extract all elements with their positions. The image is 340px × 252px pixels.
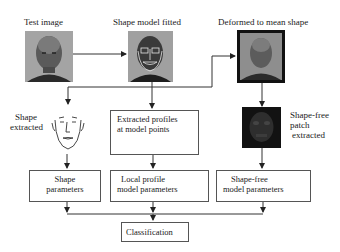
shape-free-line2: model parameters	[223, 184, 304, 194]
local-profile-line1: Local profile	[117, 174, 202, 184]
face-photo-icon	[25, 31, 73, 82]
shape-params-line2: parameters	[36, 184, 94, 194]
local-profile-parameters-box: Local profile model parameters	[110, 170, 209, 202]
shape-extracted-line2: extracted	[10, 122, 42, 132]
deformed-photo	[237, 30, 285, 83]
face-mesh-icon	[128, 31, 173, 82]
face-patch-icon	[242, 107, 281, 148]
shape-free-parameters-box: Shape-free model parameters	[216, 170, 311, 202]
local-profile-line2: model parameters	[117, 184, 202, 194]
shape-model-label: Shape model fitted	[113, 17, 181, 27]
extracted-profiles-box: Extracted profiles at model points	[110, 110, 199, 155]
classification-box: Classification	[121, 222, 189, 242]
shape-extracted-line1: Shape	[10, 112, 42, 122]
shape-params-line1: Shape	[36, 174, 94, 184]
shape-outline-face-icon	[50, 110, 86, 152]
shape-parameters-box: Shape parameters	[29, 170, 101, 202]
patch-line1: Shape-free	[290, 110, 329, 120]
shape-free-patch-photo	[242, 107, 281, 148]
deformed-label: Deformed to mean shape	[218, 17, 308, 27]
test-image-photo	[25, 31, 73, 82]
classification-label: Classification	[126, 227, 184, 237]
shape-free-line1: Shape-free	[223, 174, 304, 184]
test-image-label: Test image	[24, 17, 63, 27]
face-photo-icon	[240, 33, 282, 80]
profiles-line2: at model points	[117, 124, 192, 134]
shape-extracted-label: Shape extracted	[10, 112, 42, 132]
patch-line3: extracted	[290, 130, 329, 140]
patch-label: Shape-free patch extracted	[290, 110, 329, 140]
profiles-line1: Extracted profiles	[117, 114, 192, 124]
patch-line2: patch	[290, 120, 329, 130]
shape-model-photo	[128, 31, 173, 82]
